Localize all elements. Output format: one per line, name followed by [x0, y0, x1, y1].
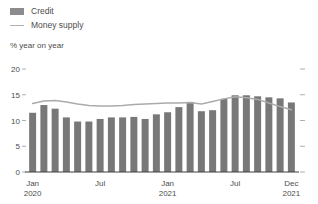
bar-series-credit: [29, 95, 295, 172]
line-series-money-supply: [33, 97, 292, 110]
x-tick-label: Jul: [95, 179, 105, 188]
y-tick-label: 20: [11, 65, 20, 74]
y-tick-label: 10: [11, 117, 20, 126]
bar: [153, 114, 160, 172]
plot-svg: 05101520 Jan2020JulJan2021JulDec2021: [0, 0, 318, 204]
y-tick-label: 15: [11, 91, 20, 100]
bar: [164, 112, 171, 172]
bar: [187, 102, 194, 172]
x-tick-label: Dec: [284, 179, 298, 188]
bar: [108, 117, 115, 172]
y-tick-label: 5: [16, 142, 21, 151]
x-tick-label-year: 2021: [159, 189, 177, 198]
credit-money-supply-chart: Credit Money supply % year on year 05101…: [0, 0, 318, 204]
bar: [142, 119, 149, 172]
bar: [85, 122, 92, 172]
bar: [243, 95, 250, 172]
bar: [97, 119, 104, 172]
bar: [209, 110, 216, 172]
bar: [277, 98, 284, 172]
bar: [220, 99, 227, 172]
bar: [175, 107, 182, 172]
bar: [265, 97, 272, 172]
bar: [40, 105, 47, 172]
bar: [254, 96, 261, 172]
bar: [130, 117, 137, 172]
bar: [232, 95, 239, 172]
bar: [63, 117, 70, 172]
x-axis-ticks: Jan2020JulJan2021JulDec2021: [24, 179, 301, 198]
y-tick-label: 0: [16, 168, 21, 177]
x-tick-label: Jan: [161, 179, 174, 188]
x-tick-label-year: 2020: [24, 189, 42, 198]
bar: [198, 111, 205, 172]
x-tick-label: Jan: [26, 179, 39, 188]
bar: [52, 109, 59, 172]
x-tick-label-year: 2021: [282, 189, 300, 198]
plot-area: 05101520 Jan2020JulJan2021JulDec2021: [0, 0, 318, 204]
bar: [74, 122, 81, 172]
money-supply-line: [33, 97, 292, 110]
bar: [288, 102, 295, 172]
bar: [119, 117, 126, 172]
x-tick-label: Jul: [230, 179, 240, 188]
bar: [29, 113, 36, 172]
